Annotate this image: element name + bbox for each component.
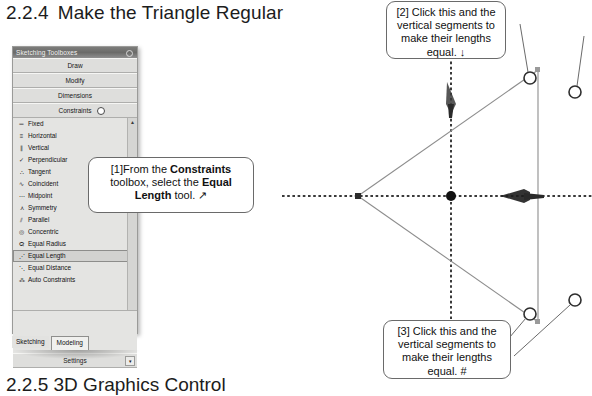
leader-line-callout2b [577, 36, 584, 86]
toolbox-section-label: Draw [67, 62, 82, 69]
constraint-label: Midpoint [28, 190, 52, 202]
coincident-icon: ∿ [16, 178, 27, 190]
leader-line-callout3b [514, 305, 570, 356]
toolbox-section-label: Dimensions [58, 92, 92, 99]
perpendicular-icon: ✓ [16, 154, 27, 166]
constraint-item-fixed[interactable]: ═ Fixed [13, 118, 137, 130]
constraint-label: Parallel [28, 214, 49, 226]
toolbox-section-draw[interactable]: Draw [13, 58, 137, 73]
constraint-item-auto-constraints[interactable]: ⁂ Auto Constraints [13, 274, 137, 286]
constraint-item-equal-distance[interactable]: ⋱ Equal Distance [13, 262, 137, 274]
constraint-item-horizontal[interactable]: ≡ Horizontal [13, 130, 137, 142]
handle-right-lower[interactable] [569, 294, 581, 306]
callout-3-pointer-icon: # [460, 365, 466, 377]
equal-distance-icon: ⋱ [16, 262, 27, 274]
fixed-icon: ═ [16, 118, 27, 130]
constraint-item-concentric[interactable]: ◎ Concentric [13, 226, 137, 238]
section-title-text: Make the Triangle Regular [58, 2, 283, 23]
toolbox-section-dimensions[interactable]: Dimensions [13, 88, 137, 103]
cursor-vertical-arrow [446, 82, 456, 118]
callout-3-text: Click this and the vertical segments to … [398, 325, 496, 377]
constraint-item-equal-radius[interactable]: ⵕ Equal Radius [13, 238, 137, 250]
panel-drop-shadow [14, 350, 140, 359]
constraint-item-parallel[interactable]: ⫽ Parallel [13, 214, 137, 226]
toolbox-section-modify[interactable]: Modify [13, 73, 137, 88]
handle-top-vertex[interactable] [524, 72, 536, 84]
constraint-label: Tangent [28, 166, 51, 178]
callout-1-text-a: From the [123, 163, 170, 175]
constraint-label: Equal Distance [28, 262, 71, 274]
callout-2-pointer-icon: ↓ [460, 46, 466, 58]
constraint-label: Fixed [28, 118, 44, 130]
tab-modeling[interactable]: Modeling [51, 336, 89, 350]
concentric-icon: ◎ [16, 226, 27, 238]
constraint-label: Auto Constraints [28, 274, 75, 286]
auto-constraints-icon: ⁂ [16, 274, 27, 286]
constraint-item-vertical[interactable]: ∥ Vertical [13, 142, 137, 154]
callout-1-text-c: tool. [171, 189, 198, 201]
callout-1-bold-a: Constraints [170, 163, 231, 175]
toolbox-section-label: Modify [65, 77, 84, 84]
constraint-label: Vertical [28, 142, 49, 154]
next-section-heading: 2.2.5 3D Graphics Control [6, 374, 226, 396]
tab-sketching[interactable]: Sketching [12, 336, 49, 348]
constraint-label: Equal Length [28, 250, 66, 262]
callout-1-marker: [1] [111, 163, 123, 175]
tab-label: Modeling [57, 339, 83, 346]
midpoint-icon: ⋯ [16, 190, 27, 202]
parallel-icon: ⫽ [16, 214, 27, 226]
section-number: 2.2.4 [6, 2, 49, 23]
vertex-top-right[interactable] [535, 67, 540, 72]
horizontal-icon: ≡ [16, 130, 27, 142]
callout-step-3: [3] Click this and the vertical segments… [383, 320, 511, 379]
callout-1-pointer-icon: ↗ [198, 189, 207, 201]
pin-icon[interactable] [126, 50, 133, 57]
tab-label: Sketching [16, 338, 45, 345]
toolbox-section-constraints[interactable]: Constraints [13, 103, 137, 118]
page-title: 2.2.4Make the Triangle Regular [6, 2, 283, 24]
symmetry-icon: ⋏ [16, 202, 27, 214]
constraint-label: Symmetry [28, 202, 57, 214]
scroll-up-icon[interactable]: ▲ [128, 118, 137, 126]
constraint-list: ▲ ═ Fixed ≡ Horizontal ∥ Vertical ✓ Perp… [13, 118, 137, 311]
constraint-label: Coincident [28, 178, 58, 190]
callout-2-marker: [2] [396, 6, 408, 18]
vertical-icon: ∥ [16, 142, 27, 154]
constraint-label: Horizontal [28, 130, 57, 142]
callout-2-text: Click this and the vertical segments to … [397, 6, 495, 58]
constraint-label: Equal Radius [28, 238, 66, 250]
callout-1-text-b: toolbox, select the [110, 176, 202, 188]
callout-step-2: [2] Click this and the vertical segments… [386, 1, 506, 59]
leader-line-callout2 [520, 24, 528, 72]
callout-3-marker: [3] [397, 325, 409, 337]
panel-titlebar: Sketching Toolboxes [13, 47, 137, 58]
callout-step-1: [1]From the Constraints toolbox, select … [88, 157, 254, 213]
constraint-label: Perpendicular [28, 154, 67, 166]
cursor-horizontal-arrow [500, 189, 544, 203]
panel-tab-bar: Sketching Modeling [12, 336, 138, 349]
tangent-icon: ∴ [16, 166, 27, 178]
equal-length-icon: ⋰ [16, 250, 27, 262]
vertex-bottom-right[interactable] [535, 319, 540, 324]
constraint-item-equal-length[interactable]: ⋰ Equal Length [13, 250, 137, 262]
triangle-edge-lower[interactable] [358, 196, 538, 322]
constraint-list-scrollbar[interactable]: ▲ [127, 118, 137, 310]
constraints-indicator-icon [97, 107, 105, 115]
toolbox-section-label: Constraints [59, 107, 92, 114]
handle-right-upper[interactable] [569, 86, 581, 98]
sketch-origin-point[interactable] [446, 191, 456, 201]
panel-title-label: Sketching Toolboxes [16, 49, 77, 56]
equal-radius-icon: ⵕ [16, 238, 27, 250]
vertex-left[interactable] [355, 193, 361, 199]
constraint-label: Concentric [28, 226, 59, 238]
